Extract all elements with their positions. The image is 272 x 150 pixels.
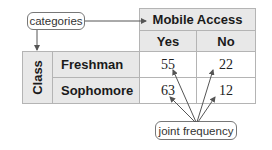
categories-callout: categories	[27, 12, 85, 30]
table-cell: 22	[196, 51, 256, 78]
column-group-header: Mobile Access	[139, 8, 256, 31]
table-cell: 12	[196, 77, 256, 104]
cell-sophomore-yes: 63	[161, 83, 175, 99]
row-label-freshman-text: Freshman	[61, 57, 123, 72]
joint-frequency-callout: joint frequency	[155, 121, 237, 140]
column-group-header-label: Mobile Access	[153, 12, 243, 27]
cell-sophomore-no: 12	[219, 83, 233, 99]
row-label-sophomore: Sophomore	[52, 77, 140, 104]
joint-frequency-label: joint frequency	[159, 125, 234, 137]
column-header-no: No	[196, 30, 256, 52]
cell-freshman-no: 22	[219, 57, 233, 73]
table-cell: 63	[139, 77, 197, 104]
column-header-no-label: No	[217, 34, 234, 49]
column-header-yes-label: Yes	[157, 34, 179, 49]
categories-label: categories	[29, 15, 82, 27]
row-group-header-label: Class	[30, 60, 45, 95]
cell-freshman-yes: 55	[161, 57, 175, 73]
row-group-header: Class	[22, 51, 53, 104]
row-label-sophomore-text: Sophomore	[61, 83, 133, 98]
row-label-freshman: Freshman	[52, 51, 140, 78]
column-header-yes: Yes	[139, 30, 197, 52]
table-cell: 55	[139, 51, 197, 78]
